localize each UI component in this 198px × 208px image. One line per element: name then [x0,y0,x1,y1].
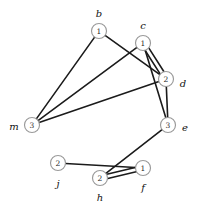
node-h[interactable]: 2h [93,171,108,203]
node-m[interactable]: 3m [9,118,39,133]
edge-d-e [166,86,167,117]
node-label-f: f [140,182,147,193]
node-value-e: 3 [166,121,171,130]
node-f[interactable]: 1f [136,161,151,193]
graph-svg: 1b1c2d3e3m2j2h1f [0,0,198,208]
node-d[interactable]: 2d [159,72,187,89]
node-value-b: 1 [97,27,102,36]
edge-m-d [39,81,159,122]
node-label-d: d [180,78,186,89]
node-j[interactable]: 2j [51,156,66,189]
node-value-h: 2 [98,174,103,183]
node-value-f: 1 [141,164,146,173]
edge-j-f [65,163,135,167]
node-b[interactable]: 1b [92,8,107,39]
node-c[interactable]: 1c [136,20,151,51]
node-label-e: e [182,122,188,133]
graph-diagram-canvas: 1b1c2d3e3m2j2h1f [0,0,198,208]
node-label-c: c [140,20,146,31]
node-value-c: 1 [141,39,146,48]
node-value-d: 2 [164,75,169,84]
node-label-b: b [96,8,102,19]
node-label-j: j [54,178,59,189]
node-label-m: m [9,121,18,132]
node-value-j: 2 [56,159,61,168]
node-label-h: h [97,192,103,203]
edge-c-m [38,47,137,120]
node-value-m: 3 [30,121,35,130]
node-e[interactable]: 3e [161,118,189,133]
